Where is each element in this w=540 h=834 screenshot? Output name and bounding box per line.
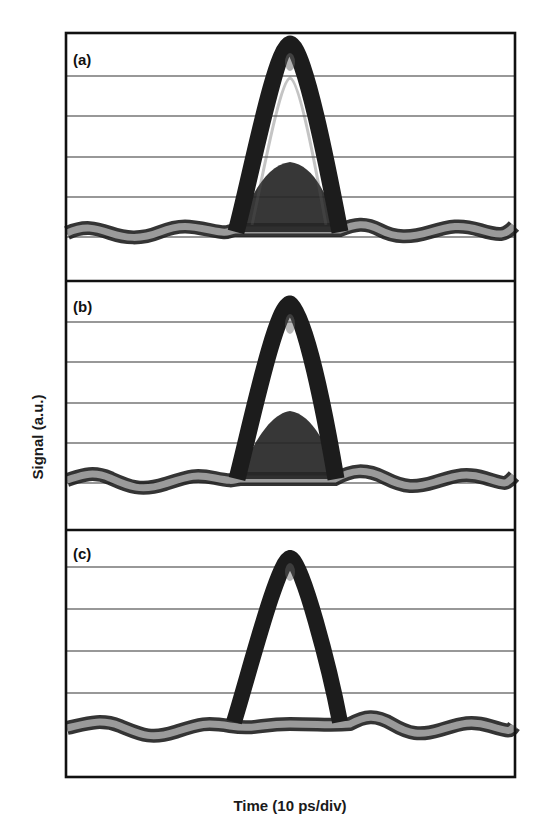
panel-label-a: (a) — [73, 51, 91, 68]
panel-b — [67, 304, 514, 488]
panel-label-b: (b) — [73, 298, 92, 315]
panel-a — [67, 44, 514, 237]
panel-c — [67, 558, 514, 736]
figure — [0, 0, 540, 834]
x-axis-label: Time (10 ps/div) — [233, 797, 346, 814]
frame — [66, 33, 515, 777]
panel-label-c: (c) — [73, 545, 91, 562]
y-axis-label: Signal (a.u.) — [29, 394, 46, 479]
gridlines-c — [67, 567, 514, 693]
main-pulse-c — [234, 558, 340, 722]
